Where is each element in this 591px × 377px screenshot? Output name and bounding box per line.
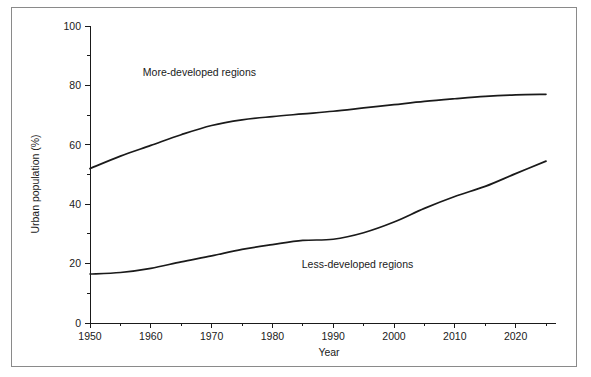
x-tick-label: 1970 (200, 330, 224, 342)
series-curve-1 (90, 94, 546, 168)
x-tick-label: 1990 (322, 330, 346, 342)
x-tick-label: 2000 (382, 330, 406, 342)
chart-page: 0204060801001950196019701980199020002010… (0, 0, 591, 377)
y-tick-label: 100 (63, 20, 81, 32)
y-tick-label: 20 (69, 257, 81, 269)
x-tick-label: 1950 (78, 330, 102, 342)
y-axis-title: Urban population (%) (29, 134, 41, 233)
data-curves-group (90, 94, 546, 274)
figure-frame: 0204060801001950196019701980199020002010… (11, 7, 577, 367)
y-tick-label: 60 (69, 139, 81, 151)
y-tick-label: 80 (69, 79, 81, 91)
x-axis-title: Year (318, 346, 340, 358)
x-tick-label: 2020 (504, 330, 528, 342)
series-labels-group: More-developed regionsLess-developed reg… (143, 66, 413, 270)
x-tick-label: 1960 (139, 330, 163, 342)
x-tick-label: 1980 (261, 330, 285, 342)
x-tick-label: 2010 (443, 330, 467, 342)
series-label-2: Less-developed regions (302, 258, 414, 270)
tick-labels-group: 0204060801001950196019701980199020002010… (63, 20, 527, 342)
series-label-1: More-developed regions (143, 66, 256, 78)
y-tick-label: 40 (69, 198, 81, 210)
y-tick-label: 0 (75, 317, 81, 329)
line-chart: 0204060801001950196019701980199020002010… (12, 8, 576, 366)
